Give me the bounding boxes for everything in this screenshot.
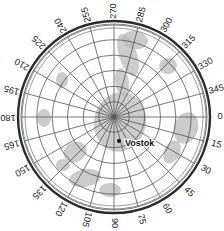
antarctic-map-figure: 0153045607590105120135150165180195210225… [0,0,224,231]
patch-left-up [56,72,68,88]
patch-lower-center [99,183,121,197]
longitude-label-270: 270 [108,3,118,18]
polar-map-canvas: 0153045607590105120135150165180195210225… [0,0,224,231]
longitude-label-0: 0 [217,111,222,121]
longitude-label-180: 180 [0,113,15,123]
patch-far-left [37,109,51,127]
patch-lower-left [56,159,70,171]
station-marker-vostok[interactable] [117,139,121,143]
longitude-label-90: 90 [110,218,120,228]
station-label-vostok: Vostok [125,138,155,148]
